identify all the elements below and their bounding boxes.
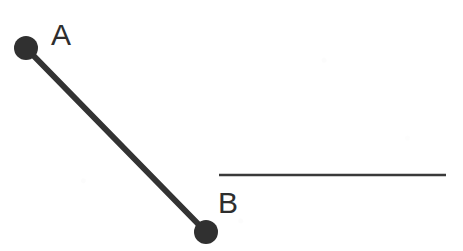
point-b-label: B <box>218 188 238 218</box>
point-a-label: A <box>51 20 71 50</box>
figure-canvas: A B <box>0 0 463 251</box>
point-b-dot <box>194 220 218 244</box>
segment-ab-line <box>26 48 206 232</box>
point-a-dot <box>14 36 38 60</box>
